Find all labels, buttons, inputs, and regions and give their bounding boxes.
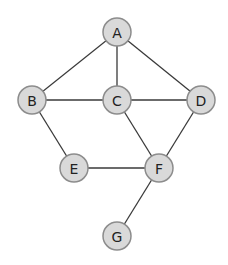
node-a-label: A — [112, 25, 122, 41]
edge-a-b — [32, 32, 117, 100]
node-f: F — [145, 154, 173, 182]
node-g: G — [103, 222, 131, 250]
node-g-label: G — [112, 229, 123, 245]
node-f-label: F — [155, 161, 163, 177]
node-b: B — [18, 86, 46, 114]
node-e-label: E — [70, 161, 79, 177]
node-d-label: D — [196, 93, 207, 109]
graph-diagram: A B C D E F G — [0, 0, 228, 265]
node-c-label: C — [112, 93, 122, 109]
node-e: E — [60, 154, 88, 182]
edge-a-d — [117, 32, 201, 100]
edges-layer — [32, 32, 201, 236]
node-b-label: B — [27, 93, 37, 109]
node-d: D — [187, 86, 215, 114]
node-a: A — [103, 18, 131, 46]
node-c: C — [103, 86, 131, 114]
